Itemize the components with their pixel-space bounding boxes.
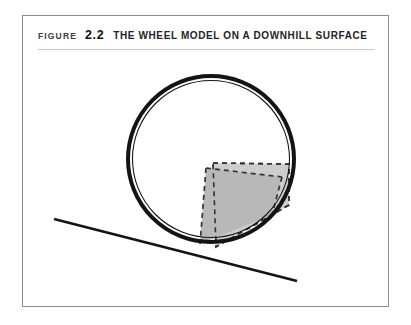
figure-root: FIGURE 2.2 THE WHEEL MODEL ON A DOWNHILL… (0, 0, 411, 325)
figure-frame: FIGURE 2.2 THE WHEEL MODEL ON A DOWNHILL… (22, 15, 389, 307)
wheel-model-diagram (23, 16, 390, 308)
downhill-surface-line (54, 219, 297, 281)
